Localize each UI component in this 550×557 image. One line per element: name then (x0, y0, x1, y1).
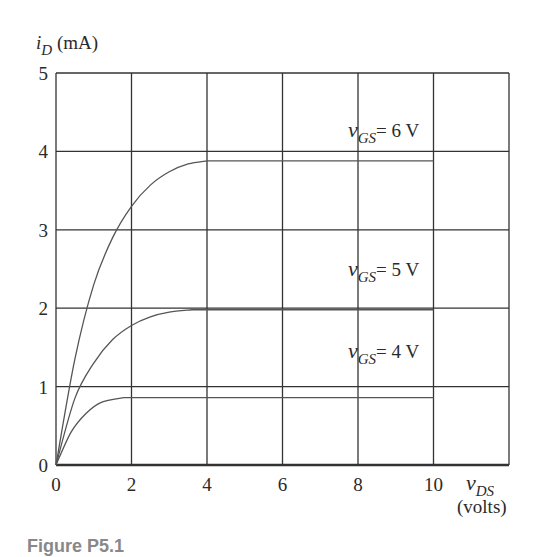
x-tick-label: 4 (202, 474, 212, 495)
curve-vgs-5 (56, 310, 434, 465)
x-tick-label: 8 (353, 474, 363, 495)
y-tick-label: 4 (39, 141, 49, 162)
label-vgs-6: vGS= 6 V (348, 117, 419, 146)
y-tick-label: 5 (39, 63, 49, 84)
curves (56, 161, 434, 465)
y-tick-label: 3 (39, 220, 49, 241)
x-axis-label: vDS (466, 470, 495, 499)
y-tick-label: 2 (39, 298, 49, 319)
y-tick-label: 0 (39, 455, 49, 476)
label-vgs-5: vGS= 5 V (348, 256, 419, 285)
grid (56, 73, 509, 465)
x-tick-label: 6 (278, 474, 288, 495)
y-axis-label: iD (mA) (36, 32, 98, 58)
y-tick-label: 1 (39, 377, 49, 398)
figure-caption: Figure P5.1 (27, 536, 124, 557)
x-tick-label: 10 (424, 474, 443, 495)
curve-vgs-6 (56, 161, 434, 465)
x-axis-unit: (volts) (457, 496, 507, 518)
x-tick-label: 2 (127, 474, 137, 495)
x-tick-label: 0 (51, 474, 61, 495)
curve-vgs-4 (56, 398, 434, 465)
label-vgs-4: vGS= 4 V (348, 338, 419, 367)
